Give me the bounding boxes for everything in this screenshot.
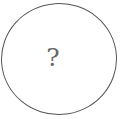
question-mark-label: ? [0, 43, 106, 73]
